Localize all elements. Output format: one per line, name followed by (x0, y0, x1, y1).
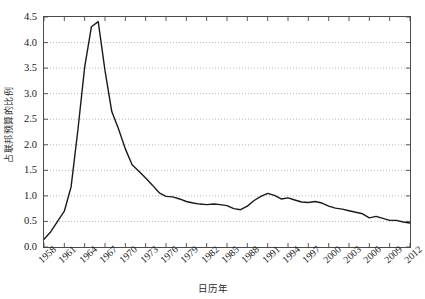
line-chart-svg (44, 17, 410, 247)
gridlines (44, 43, 410, 222)
y-tick-label: 4.5 (24, 12, 37, 23)
y-tick-label: 1.0 (24, 191, 37, 202)
data-series-line (44, 22, 410, 240)
y-tick-label: 4.0 (24, 37, 37, 48)
y-tick-label: 0.0 (24, 242, 37, 253)
y-axis-title-text: 占联邦预算的比例 (2, 86, 15, 162)
y-tick-label: 2.0 (24, 140, 37, 151)
plot-area (43, 16, 411, 248)
y-axis-tick-labels: 0.00.51.01.52.02.53.03.54.04.5 (14, 16, 40, 248)
y-tick-label: 1.5 (24, 165, 37, 176)
y-tick-label: 3.0 (24, 88, 37, 99)
x-axis-title: 日历年 (0, 281, 425, 295)
chart-container: 占联邦预算的比例 0.00.51.01.52.02.53.03.54.04.5 … (0, 0, 425, 299)
y-tick-label: 2.5 (24, 114, 37, 125)
y-tick-label: 3.5 (24, 63, 37, 74)
x-axis-tick-labels: 1958196119641967197019731976197919821985… (43, 249, 411, 279)
y-tick-label: 0.5 (24, 216, 37, 227)
